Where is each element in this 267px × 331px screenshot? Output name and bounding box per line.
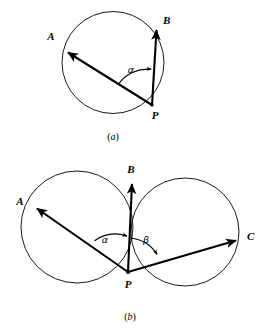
angle-label-alpha-panel-b: α (102, 234, 109, 245)
vector-pc-panel-b (128, 241, 236, 273)
point-label-b-panel-a: B (162, 14, 170, 26)
panel-b: A B C P α β (b) (15, 163, 255, 323)
point-label-a-panel-b: A (15, 195, 23, 207)
circle-left-panel-b (21, 171, 133, 283)
point-label-c-panel-b: C (247, 230, 255, 242)
angle-arc-alpha-panel-a (119, 69, 152, 84)
point-label-p-panel-b: P (125, 278, 132, 290)
figure-container: A B P α (a) A B C P α β (b) (0, 0, 267, 331)
panel-caption-a: (a) (107, 131, 119, 143)
vector-pa-panel-a (68, 53, 152, 106)
vector-pb-panel-a (152, 30, 157, 105)
point-label-a-panel-a: A (46, 30, 54, 42)
angle-label-beta-panel-b: β (142, 234, 149, 245)
angle-arc-alpha-panel-b (95, 234, 128, 241)
geometry-diagram: A B P α (a) A B C P α β (b) (0, 0, 267, 331)
circle-right-panel-b (131, 178, 239, 286)
point-label-p-panel-a: P (152, 109, 159, 121)
caption-b-close: ) (133, 311, 136, 323)
vector-pa-panel-b (37, 209, 128, 273)
panel-a: A B P α (a) (46, 12, 170, 144)
panel-caption-b: (b) (124, 311, 136, 323)
circle-a (62, 12, 164, 114)
angle-label-alpha-panel-a: α (128, 64, 135, 75)
caption-a-close: ) (116, 131, 119, 143)
point-label-b-panel-b: B (126, 163, 134, 175)
point-dot-p-panel-b (126, 270, 130, 274)
point-dot-p-panel-a (150, 103, 153, 106)
